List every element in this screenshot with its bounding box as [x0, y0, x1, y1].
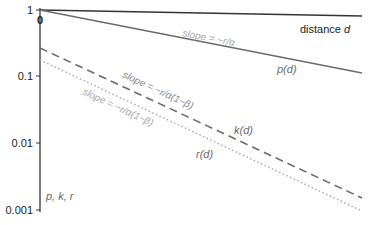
series-k-line	[40, 48, 362, 198]
chart-canvas: 1 0.1 0.01 0.001 0 distance d p(d) slope…	[0, 0, 375, 225]
x-origin-label: 0	[37, 14, 43, 26]
x-axis	[40, 10, 362, 16]
series-k-label: k(d)	[234, 124, 253, 136]
x-axis-title: distance d	[300, 23, 351, 35]
slope-k-annotation: slope = −r/α(1−β)	[121, 69, 195, 111]
series-r-label: r(d)	[196, 148, 213, 160]
y-tick-label-0.01: 0.01	[12, 137, 33, 149]
y-axis-title: p, k, r	[45, 190, 75, 202]
series-r-line	[40, 60, 362, 211]
slope-r-annotation: slope = −r/α(1−β)	[81, 86, 155, 128]
slope-p-annotation: slope = −r/α	[182, 27, 236, 48]
y-tick-label-0.1: 0.1	[18, 70, 33, 82]
y-tick-label-0.001: 0.001	[5, 204, 33, 216]
y-tick-label-1: 1	[27, 4, 33, 16]
series-p-label: p(d)	[276, 63, 297, 75]
